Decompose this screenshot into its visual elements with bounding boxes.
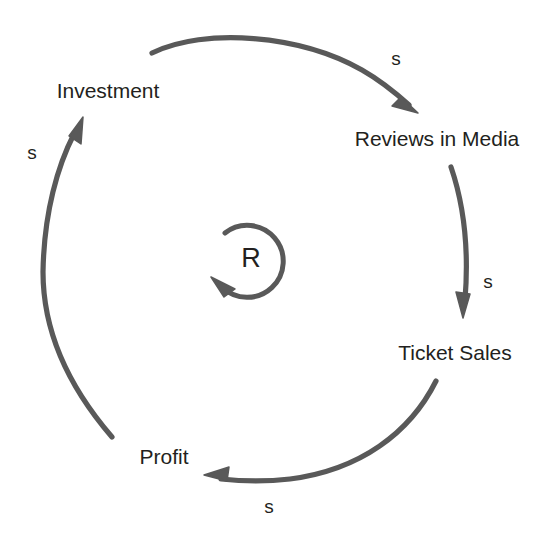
node-label-profit: Profit [139, 446, 188, 467]
polarity-label-ticket-sales-to-profit: s [264, 497, 274, 516]
link-profit-to-investment [43, 117, 112, 437]
polarity-label-profit-to-investment: s [27, 143, 37, 162]
link-ticket-sales-to-profit-curve [221, 381, 436, 481]
link-reviews-to-ticket-sales-curve [451, 167, 466, 300]
link-investment-to-reviews-curve [152, 38, 409, 105]
polarity-label-investment-to-reviews: s [391, 49, 401, 68]
polarity-label-reviews-to-ticket-sales: s [483, 272, 493, 291]
link-ticket-sales-to-profit [204, 381, 436, 481]
loop-identifier-label: R [241, 245, 261, 272]
node-label-ticket-sales: Ticket Sales [398, 342, 512, 363]
causal-loop-diagram: Investment Reviews in Media Ticket Sales… [0, 0, 536, 541]
node-label-reviews-in-media: Reviews in Media [355, 128, 520, 149]
link-reviews-to-ticket-sales-arrowhead [456, 292, 470, 318]
link-ticket-sales-to-profit-arrowhead [204, 467, 229, 481]
link-reviews-to-ticket-sales [451, 167, 470, 318]
link-investment-to-reviews [152, 38, 418, 113]
node-label-investment: Investment [57, 80, 160, 101]
link-profit-to-investment-curve [43, 134, 112, 437]
